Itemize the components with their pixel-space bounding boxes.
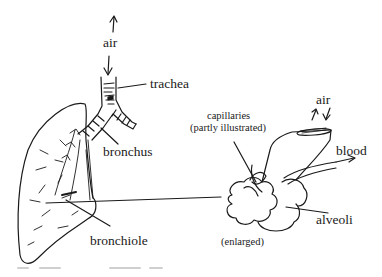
lung-detail	[28, 129, 93, 245]
label-air-right: air	[316, 93, 330, 107]
trachea-leader	[118, 84, 146, 88]
label-capillaries: capillaries	[207, 111, 250, 122]
label-trachea: trachea	[150, 77, 189, 91]
lung-drawing	[0, 0, 382, 277]
label-bronchus: bronchus	[103, 145, 153, 159]
lung-diagram: air trachea bronchus bronchiole capillar…	[0, 0, 382, 277]
enlargement-connector	[46, 197, 221, 203]
bronchiole-leader	[66, 200, 110, 226]
air-down-arrow-icon	[104, 56, 112, 75]
label-alveoli: alveoli	[316, 213, 353, 227]
label-bronchiole: bronchiole	[90, 234, 148, 248]
label-capillaries-note: (partly illustrated)	[190, 123, 266, 134]
air-up-arrow-icon	[110, 16, 117, 32]
air-arrows-right-icon	[312, 108, 330, 120]
label-enlarged: (enlarged)	[221, 237, 264, 248]
label-blood: blood	[336, 144, 367, 158]
lung-outline	[18, 103, 96, 263]
bronchus-leader	[101, 128, 118, 144]
capillaries-leader	[234, 142, 256, 182]
label-air-top: air	[103, 36, 117, 50]
